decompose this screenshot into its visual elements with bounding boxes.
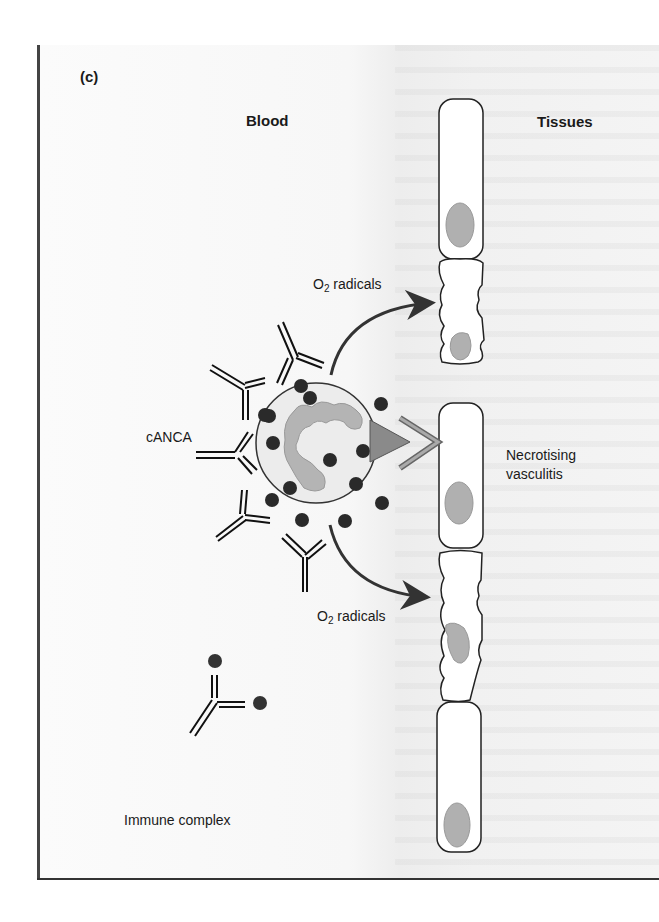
neutrophil-icon	[256, 383, 376, 503]
antibody-icon	[196, 432, 257, 474]
endothelial-cell-damaged-icon	[439, 551, 482, 702]
necrotising-line1: Necrotising	[506, 446, 576, 465]
antibody-icon	[277, 322, 324, 385]
endothelial-cell-intact-icon	[439, 99, 483, 259]
canca-label: cANCA	[146, 429, 192, 445]
immune-complex-icon	[190, 654, 267, 736]
o2-suffix: radicals	[329, 276, 381, 292]
necrotising-line2: vasculitis	[506, 465, 576, 484]
endothelial-cell-damaged-icon	[439, 259, 484, 364]
necrotising-vasculitis-label: Necrotising vasculitis	[506, 446, 576, 484]
o2-suffix: radicals	[333, 608, 385, 624]
blood-heading: Blood	[246, 112, 289, 129]
o2-radicals-arrow-bottom-icon	[330, 525, 425, 597]
neutrophil-attack-arrowhead-icon	[370, 420, 410, 462]
antibody-icon	[210, 365, 265, 420]
antibody-icon	[216, 490, 270, 541]
o2-radicals-arrow-top-icon	[331, 303, 430, 375]
endothelial-cell-intact-icon	[437, 702, 481, 852]
o2-radicals-label-bottom: O2 radicals	[317, 608, 386, 626]
o2-prefix: O	[313, 276, 324, 292]
endothelial-cell-intact-icon	[439, 403, 483, 548]
o2-radicals-label-top: O2 radicals	[313, 276, 382, 294]
antibody-icon	[282, 534, 326, 592]
o2-prefix: O	[317, 608, 328, 624]
panel-label: (c)	[80, 68, 98, 85]
endothelial-cell-column	[437, 99, 484, 852]
immune-complex-label: Immune complex	[124, 812, 231, 828]
tissues-heading: Tissues	[537, 113, 593, 130]
